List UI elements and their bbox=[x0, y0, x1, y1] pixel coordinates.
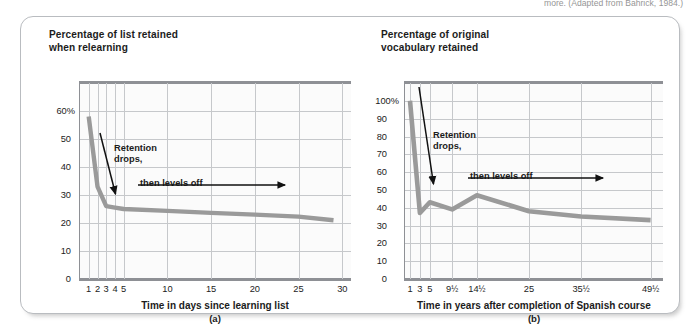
panel-a-xtick-1: 1 bbox=[86, 284, 91, 294]
panel-b-xtick-25: 25 bbox=[524, 284, 534, 294]
panel-b-xtick-35h: 35½ bbox=[572, 284, 589, 294]
panel-b-ytick-10: 10 bbox=[351, 256, 387, 266]
panel-a-ytick-20: 20 bbox=[29, 218, 71, 228]
panel-b-ytick-40: 40 bbox=[351, 203, 387, 213]
panel-a: Percentage of list retained when relearn… bbox=[23, 17, 355, 315]
panel-b-xlabel: Time in years after completion of Spanis… bbox=[417, 300, 651, 311]
panel-b-ytick-60: 60 bbox=[351, 167, 387, 177]
panel-a-xtick-30: 30 bbox=[337, 284, 347, 294]
panel-a-xtick-20: 20 bbox=[250, 284, 260, 294]
panel-b-title-line2: vocabulary retained bbox=[381, 41, 489, 54]
panel-a-xtick-2: 2 bbox=[95, 284, 100, 294]
panel-b-ytick-0: 0 bbox=[351, 274, 387, 284]
figure-caption-top: more. (Adapted from Bahrick, 1984.) bbox=[447, 0, 683, 9]
panel-a-annotation-retention-drops: Retention drops, bbox=[114, 143, 157, 166]
panel-b-xtick-49h: 49½ bbox=[642, 284, 659, 294]
panel-b-xtick-14h: 14½ bbox=[468, 284, 485, 294]
panel-b-ytick-80: 80 bbox=[351, 132, 387, 142]
panel-a-xtick-3: 3 bbox=[104, 284, 109, 294]
panel-a-ytick-10: 10 bbox=[29, 246, 71, 256]
panel-a-ytick-50: 50 bbox=[29, 134, 71, 144]
panel-b: Percentage of original vocabulary retain… bbox=[355, 17, 679, 315]
panel-b-letter: (b) bbox=[528, 313, 540, 324]
panel-a-title-line2: when relearning bbox=[49, 41, 178, 54]
panel-b-ytick-90: 90 bbox=[351, 114, 387, 124]
panel-a-ytick-40: 40 bbox=[29, 162, 71, 172]
panel-a-ytick-60: 60% bbox=[27, 106, 75, 116]
panel-b-anno-line2: drops, bbox=[433, 141, 476, 152]
panel-a-title-line1: Percentage of list retained bbox=[49, 28, 178, 41]
panel-b-annotation-levels-off: then levels off bbox=[470, 171, 533, 182]
panel-b-xtick-5: 5 bbox=[427, 284, 432, 294]
panel-a-anno-line2: drops, bbox=[114, 154, 157, 165]
panel-b-annotation-retention-drops: Retention drops, bbox=[433, 130, 476, 153]
panel-a-plot-area bbox=[80, 83, 351, 279]
panel-b-ytick-20: 20 bbox=[351, 238, 387, 248]
panel-a-xtick-4: 4 bbox=[112, 284, 117, 294]
panel-a-title: Percentage of list retained when relearn… bbox=[49, 28, 178, 54]
panel-b-xtick-3: 3 bbox=[417, 284, 422, 294]
panel-b-xtick-9h: 9½ bbox=[446, 284, 458, 294]
panel-a-ytick-0: 0 bbox=[29, 274, 71, 284]
panel-a-xtick-25: 25 bbox=[293, 284, 303, 294]
panel-a-xtick-10: 10 bbox=[162, 284, 172, 294]
panel-b-plot-area bbox=[405, 83, 663, 279]
panel-b-xtick-1: 1 bbox=[407, 284, 412, 294]
panel-a-ytick-30: 30 bbox=[29, 190, 71, 200]
panel-a-anno-line1: Retention bbox=[114, 143, 157, 154]
panel-b-title-line1: Percentage of original bbox=[381, 28, 489, 41]
panel-b-ytick-50: 50 bbox=[351, 185, 387, 195]
figure-box: Percentage of list retained when relearn… bbox=[20, 16, 680, 314]
panel-b-anno-line1: Retention bbox=[433, 130, 476, 141]
panel-a-xtick-15: 15 bbox=[206, 284, 216, 294]
panel-b-ytick-100: 100% bbox=[351, 96, 399, 106]
panel-a-xtick-5: 5 bbox=[121, 284, 126, 294]
panel-a-letter: (a) bbox=[209, 313, 221, 324]
figure-root: more. (Adapted from Bahrick, 1984.) Perc… bbox=[0, 0, 698, 333]
panel-b-data-line bbox=[405, 83, 663, 279]
panel-b-title: Percentage of original vocabulary retain… bbox=[381, 28, 489, 54]
panel-a-xlabel: Time in days since learning list bbox=[141, 300, 289, 311]
panel-a-annotation-levels-off: then levels off bbox=[140, 178, 203, 189]
panel-b-ytick-30: 30 bbox=[351, 221, 387, 231]
panel-b-ytick-70: 70 bbox=[351, 149, 387, 159]
panel-a-data-line bbox=[80, 83, 351, 279]
